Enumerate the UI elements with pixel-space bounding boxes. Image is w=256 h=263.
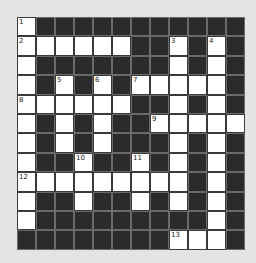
blocked-cell xyxy=(226,211,245,230)
blocked-cell xyxy=(150,56,169,75)
blocked-cell xyxy=(93,192,112,211)
crossword-cell[interactable] xyxy=(207,172,226,191)
blocked-cell xyxy=(150,133,169,152)
blocked-cell xyxy=(131,56,150,75)
crossword-cell[interactable]: 4 xyxy=(207,36,226,55)
blocked-cell xyxy=(150,230,169,249)
clue-number: 9 xyxy=(152,115,156,123)
crossword-cell[interactable] xyxy=(131,172,150,191)
crossword-cell[interactable] xyxy=(55,114,74,133)
blocked-cell xyxy=(226,192,245,211)
crossword-cell[interactable] xyxy=(74,192,93,211)
crossword-cell[interactable] xyxy=(169,56,188,75)
crossword-cell[interactable] xyxy=(169,133,188,152)
crossword-cell[interactable] xyxy=(55,172,74,191)
crossword-cell[interactable] xyxy=(55,133,74,152)
crossword-cell[interactable] xyxy=(93,95,112,114)
crossword-cell[interactable]: 3 xyxy=(169,36,188,55)
crossword-cell[interactable]: 6 xyxy=(93,75,112,94)
crossword-cell[interactable] xyxy=(93,114,112,133)
crossword-cell[interactable]: 5 xyxy=(55,75,74,94)
blocked-cell xyxy=(150,36,169,55)
blocked-cell xyxy=(188,133,207,152)
crossword-cell[interactable]: 1 xyxy=(17,17,36,36)
crossword-cell[interactable] xyxy=(169,153,188,172)
crossword-cell[interactable]: 2 xyxy=(17,36,36,55)
clue-number: 11 xyxy=(133,154,142,162)
crossword-cell[interactable] xyxy=(207,133,226,152)
clue-number: 3 xyxy=(171,37,175,45)
blocked-cell xyxy=(36,56,55,75)
crossword-cell[interactable] xyxy=(36,95,55,114)
crossword-cell[interactable] xyxy=(207,230,226,249)
crossword-cell[interactable] xyxy=(55,36,74,55)
crossword-cell[interactable] xyxy=(112,172,131,191)
clue-number: 5 xyxy=(57,76,61,84)
blocked-cell xyxy=(93,153,112,172)
crossword-cell[interactable] xyxy=(74,36,93,55)
crossword-cell[interactable] xyxy=(17,56,36,75)
crossword-cell[interactable] xyxy=(188,230,207,249)
crossword-cell[interactable] xyxy=(17,133,36,152)
crossword-cell[interactable] xyxy=(169,95,188,114)
crossword-cell[interactable] xyxy=(74,95,93,114)
crossword-cell[interactable] xyxy=(226,114,245,133)
crossword-cell[interactable] xyxy=(169,172,188,191)
clue-number: 4 xyxy=(209,37,213,45)
crossword-cell[interactable] xyxy=(169,114,188,133)
crossword-cell[interactable] xyxy=(55,95,74,114)
crossword-cell[interactable] xyxy=(207,153,226,172)
blocked-cell xyxy=(188,172,207,191)
blocked-cell xyxy=(112,133,131,152)
blocked-cell xyxy=(131,17,150,36)
crossword-cell[interactable] xyxy=(207,211,226,230)
blocked-cell xyxy=(93,56,112,75)
crossword-cell[interactable] xyxy=(169,192,188,211)
crossword-cell[interactable] xyxy=(17,153,36,172)
blocked-cell xyxy=(131,36,150,55)
blocked-cell xyxy=(131,114,150,133)
crossword-cell[interactable]: 10 xyxy=(74,153,93,172)
crossword-cell[interactable] xyxy=(93,36,112,55)
blocked-cell xyxy=(169,17,188,36)
clue-number: 2 xyxy=(19,37,23,45)
crossword-cell[interactable] xyxy=(17,75,36,94)
crossword-cell[interactable] xyxy=(207,56,226,75)
blocked-cell xyxy=(17,230,36,249)
blocked-cell xyxy=(150,17,169,36)
blocked-cell xyxy=(112,211,131,230)
crossword-cell[interactable]: 8 xyxy=(17,95,36,114)
crossword-cell[interactable] xyxy=(207,75,226,94)
crossword-cell[interactable] xyxy=(74,172,93,191)
crossword-cell[interactable]: 13 xyxy=(169,230,188,249)
crossword-cell[interactable] xyxy=(17,192,36,211)
crossword-cell[interactable] xyxy=(17,114,36,133)
crossword-cell[interactable]: 7 xyxy=(131,75,150,94)
crossword-cell[interactable] xyxy=(188,114,207,133)
crossword-cell[interactable] xyxy=(112,36,131,55)
crossword-cell[interactable] xyxy=(207,192,226,211)
crossword-cell[interactable] xyxy=(93,133,112,152)
crossword-cell[interactable] xyxy=(93,172,112,191)
clue-number: 13 xyxy=(171,231,180,239)
blocked-cell xyxy=(55,56,74,75)
crossword-cell[interactable] xyxy=(207,95,226,114)
crossword-cell[interactable]: 9 xyxy=(150,114,169,133)
crossword-cell[interactable] xyxy=(150,172,169,191)
crossword-cell[interactable] xyxy=(150,75,169,94)
blocked-cell xyxy=(55,211,74,230)
crossword-cell[interactable] xyxy=(207,114,226,133)
crossword-cell[interactable] xyxy=(17,211,36,230)
crossword-cell[interactable] xyxy=(131,192,150,211)
crossword-cell[interactable]: 12 xyxy=(17,172,36,191)
crossword-cell[interactable] xyxy=(36,172,55,191)
crossword-cell[interactable] xyxy=(169,75,188,94)
blocked-cell xyxy=(74,230,93,249)
blocked-cell xyxy=(112,230,131,249)
crossword-cell[interactable] xyxy=(188,75,207,94)
crossword-cell[interactable] xyxy=(112,95,131,114)
blocked-cell xyxy=(74,75,93,94)
crossword-cell[interactable] xyxy=(36,36,55,55)
crossword-cell[interactable]: 11 xyxy=(131,153,150,172)
blocked-cell xyxy=(36,211,55,230)
